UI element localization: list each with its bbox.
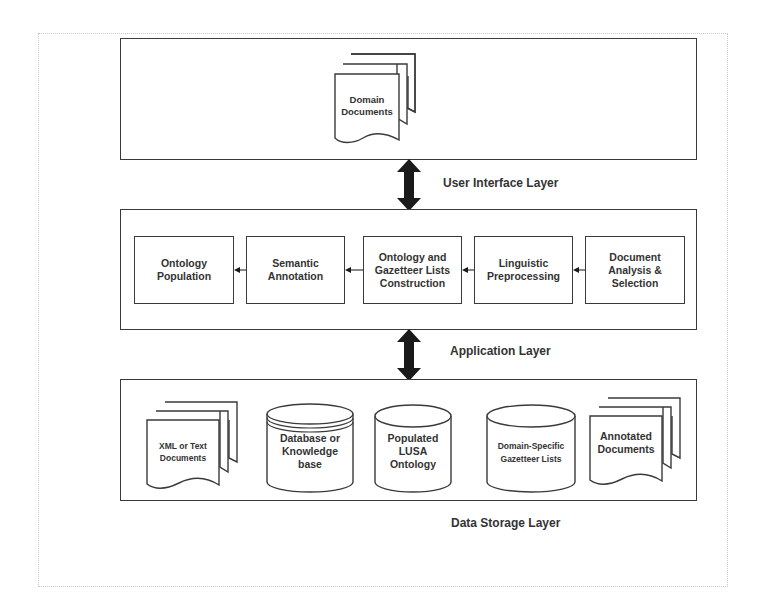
xml-text-documents-label: XML or Text Documents bbox=[147, 440, 219, 464]
app-storage-bidirectional-arrow bbox=[397, 329, 421, 381]
populated-lusa-ontology-label: Populated LUSA Ontology bbox=[373, 432, 453, 471]
database-knowledge-base-icon: Database or Knowledge base bbox=[265, 402, 355, 494]
xml-text-documents-icon: XML or Text Documents bbox=[145, 400, 240, 492]
populated-lusa-ontology-icon: Populated LUSA Ontology bbox=[373, 402, 453, 494]
database-knowledge-base-label: Database or Knowledge base bbox=[265, 432, 355, 471]
domain-gazetteer-lists-label: Domain-Specific Gazetteer Lists bbox=[485, 440, 577, 466]
domain-gazetteer-lists-icon: Domain-Specific Gazetteer Lists bbox=[485, 402, 577, 494]
application-layer-label: Application Layer bbox=[450, 344, 551, 358]
annotated-documents-icon: Annotated Documents bbox=[588, 396, 683, 492]
data-storage-layer-label: Data Storage Layer bbox=[451, 516, 560, 530]
flow-arrows bbox=[0, 0, 767, 611]
annotated-documents-label: Annotated Documents bbox=[590, 430, 662, 456]
